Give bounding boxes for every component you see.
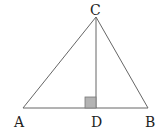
label-d: D <box>91 114 102 130</box>
segment-ac <box>23 17 96 108</box>
triangle-diagram: A B C D <box>0 0 164 130</box>
label-b: B <box>145 114 155 130</box>
right-angle-marker <box>85 97 96 108</box>
label-a: A <box>13 114 25 130</box>
segment-bc <box>96 17 148 108</box>
label-c: C <box>90 2 101 18</box>
